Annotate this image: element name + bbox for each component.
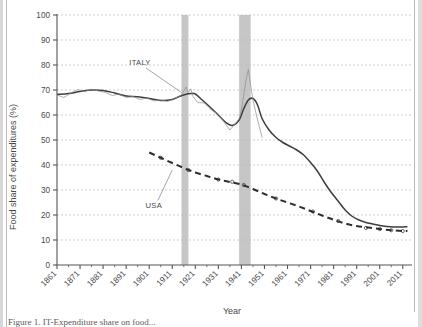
series-annotations-group: ITALYUSA xyxy=(129,58,181,210)
y-tick-label-20: 20 xyxy=(41,211,51,220)
series-line-italy xyxy=(57,90,407,227)
x-tick-label-1961: 1961 xyxy=(270,269,290,289)
x-tick-label-1941: 1941 xyxy=(224,269,244,289)
shaded-band-world-war-two xyxy=(239,15,251,265)
x-tick-label-1891: 1891 xyxy=(108,269,128,289)
x-tick-label-1951: 1951 xyxy=(247,269,267,289)
tick-labels-group: 0102030405060708090100186118711881189119… xyxy=(36,11,404,288)
figure-caption: Figure 1. IT-Expenditure share on food..… xyxy=(8,318,155,327)
axes-group xyxy=(57,14,412,265)
leader-line-italy xyxy=(146,68,181,93)
x-tick-label-2001: 2001 xyxy=(362,269,382,289)
x-tick-label-1991: 1991 xyxy=(339,269,359,289)
x-tick-label-1931: 1931 xyxy=(201,269,221,289)
series-group xyxy=(57,70,407,232)
y-tick-label-50: 50 xyxy=(41,136,51,145)
series-annotation-italy: ITALY xyxy=(129,58,150,67)
figure-caption-clip: Figure 1. IT-Expenditure share on food..… xyxy=(8,318,412,327)
y-tick-label-0: 0 xyxy=(45,261,50,270)
x-tick-label-1981: 1981 xyxy=(316,269,336,289)
x-tick-label-1921: 1921 xyxy=(177,269,197,289)
x-tick-label-1881: 1881 xyxy=(85,269,105,289)
series-annotation-usa: USA xyxy=(146,201,163,210)
x-tick-label-1861: 1861 xyxy=(39,269,59,289)
x-tick-label-1901: 1901 xyxy=(131,269,151,289)
y-tick-label-100: 100 xyxy=(36,11,50,20)
y-tick-label-70: 70 xyxy=(41,86,51,95)
x-tick-label-2011: 2011 xyxy=(385,269,404,288)
y-tick-label-10: 10 xyxy=(41,236,51,245)
leader-line-usa xyxy=(158,170,172,201)
gridlines-group xyxy=(57,15,412,240)
x-tick-label-1871: 1871 xyxy=(62,269,82,289)
y-tick-label-60: 60 xyxy=(41,111,51,120)
figure-root: 0102030405060708090100186118711881189119… xyxy=(0,0,422,327)
usa-markers-group xyxy=(159,156,404,232)
series-line-italy-raw xyxy=(57,70,262,138)
war-bands-group xyxy=(181,15,250,265)
x-tick-label-1971: 1971 xyxy=(293,269,313,289)
x-axis-title: Year xyxy=(223,306,241,316)
y-tick-label-90: 90 xyxy=(41,36,51,45)
line-chart: 0102030405060708090100186118711881189119… xyxy=(0,0,422,327)
y-tick-label-30: 30 xyxy=(41,186,51,195)
y-tick-label-40: 40 xyxy=(41,161,51,170)
y-axis-title: Food share of expenditures (%) xyxy=(8,104,18,230)
y-tick-label-80: 80 xyxy=(41,61,51,70)
axis-ticks-group xyxy=(53,15,403,269)
usa-data-point xyxy=(231,180,234,183)
x-tick-label-1911: 1911 xyxy=(155,269,174,288)
